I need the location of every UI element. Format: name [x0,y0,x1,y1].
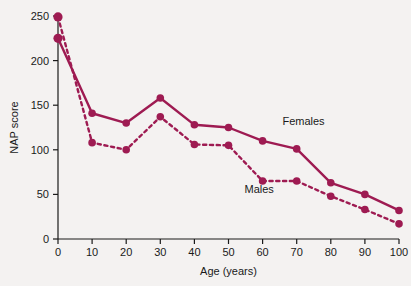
series-label-females: Females [282,115,325,127]
y-axis-tick-label: 250 [31,10,49,22]
data-point-males [293,177,301,185]
y-axis-tick-label: 100 [31,144,49,156]
data-point-females [157,94,165,102]
x-axis-tick-label: 30 [154,246,166,258]
chart-series [53,12,402,227]
data-point-females [88,109,96,117]
data-point-females [225,124,233,132]
x-axis-tick-label: 0 [55,246,61,258]
x-axis-tick-label: 20 [120,246,132,258]
y-axis-tick-label: 200 [31,55,49,67]
y-axis-title: NAP score [8,101,20,153]
line-chart: FemalesMales 050100150200250010203040506… [0,0,411,286]
series-line-males [58,17,399,224]
data-point-males [361,206,369,214]
x-axis-title: Age (years) [200,265,257,277]
data-point-females [293,145,301,153]
data-point-males [157,113,165,121]
x-axis-tick-label: 80 [325,246,337,258]
data-point-females [259,137,267,145]
y-axis-tick-label: 150 [31,99,49,111]
data-point-males [53,12,62,21]
data-point-males [395,220,403,228]
y-axis-tick-label: 0 [43,233,49,245]
data-point-males [327,192,335,200]
data-point-females [327,179,335,187]
data-point-females [395,207,403,215]
x-axis-tick-label: 90 [359,246,371,258]
chart-annotations: FemalesMales [245,115,326,195]
x-axis-tick-label: 40 [188,246,200,258]
data-point-females [361,191,369,199]
y-axis-tick-label: 50 [37,188,49,200]
data-point-males [122,146,130,154]
data-point-females [122,119,130,127]
data-point-males [225,142,233,150]
data-point-males [88,139,96,147]
x-axis-tick-label: 100 [390,246,408,258]
data-point-males [191,141,199,149]
series-label-males: Males [245,183,275,195]
x-axis-tick-label: 10 [86,246,98,258]
x-axis-tick-label: 60 [256,246,268,258]
x-axis-tick-label: 70 [291,246,303,258]
chart-figure: FemalesMales 050100150200250010203040506… [0,0,411,286]
data-point-females [53,34,62,43]
x-axis-tick-label: 50 [222,246,234,258]
data-point-females [191,121,199,129]
